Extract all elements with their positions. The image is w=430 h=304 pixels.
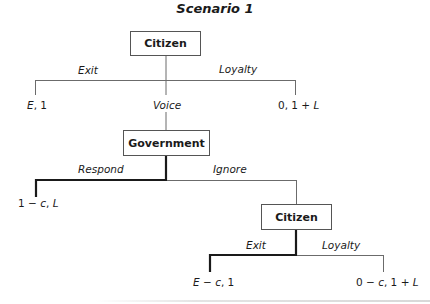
payoff-text: , 1 xyxy=(34,99,47,111)
payoff-citizen2-exit: E − c, 1 xyxy=(193,276,234,288)
payoff-var: L xyxy=(53,197,59,209)
payoff-respond: 1 − c, L xyxy=(18,197,58,209)
respond-label: Respond xyxy=(78,163,124,175)
citizen-second-label: Citizen xyxy=(275,211,318,224)
payoff-var: L xyxy=(314,99,320,111)
root-loyalty-label: Loyalty xyxy=(219,63,257,75)
citizen-root-label: Citizen xyxy=(144,37,187,50)
payoff-text: 1 − xyxy=(18,197,40,209)
game-tree-edges xyxy=(0,0,430,304)
payoff-text: , 1 + xyxy=(384,276,413,288)
payoff-text: 0 − xyxy=(356,276,378,288)
citizen2-exit-label: Exit xyxy=(246,239,266,251)
government-label: Government xyxy=(128,137,204,150)
payoff-var: E xyxy=(27,99,34,111)
bottom-divider xyxy=(95,300,430,302)
payoff-text: 0, 1 + xyxy=(278,99,314,111)
payoff-root-exit: E, 1 xyxy=(27,99,47,111)
root-exit-label: Exit xyxy=(78,64,98,76)
payoff-text: , xyxy=(46,197,53,209)
payoff-text: , 1 xyxy=(221,276,234,288)
government-node: Government xyxy=(123,130,210,156)
citizen-root-node: Citizen xyxy=(130,31,201,56)
payoff-text: − xyxy=(200,276,215,288)
payoff-var: L xyxy=(413,276,419,288)
payoff-citizen2-loyalty: 0 − c, 1 + L xyxy=(356,276,419,288)
citizen-second-node: Citizen xyxy=(261,204,332,230)
payoff-var: E xyxy=(193,276,200,288)
citizen2-loyalty-label: Loyalty xyxy=(322,239,360,251)
payoff-root-loyalty: 0, 1 + L xyxy=(278,99,319,111)
ignore-label: Ignore xyxy=(213,163,247,175)
root-voice-label: Voice xyxy=(153,99,181,111)
